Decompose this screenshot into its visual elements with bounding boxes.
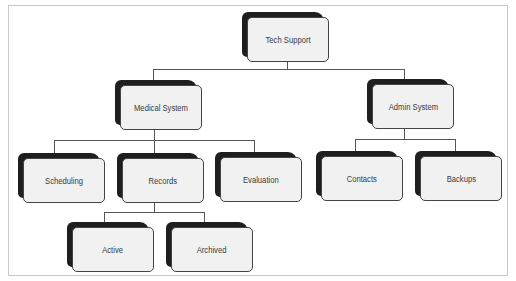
node-box: Evaluation — [220, 157, 302, 202]
node-evaluation: Evaluation — [215, 152, 297, 197]
connector-records-horizontal — [104, 212, 205, 213]
node-box: Records — [122, 158, 204, 203]
node-box: Medical System — [120, 85, 202, 130]
connector-admin-horizontal — [355, 139, 456, 140]
node-box: Tech Support — [247, 17, 329, 62]
node-tech-support: Tech Support — [242, 12, 324, 57]
node-label: Evaluation — [243, 175, 279, 185]
node-box: Archived — [171, 227, 253, 272]
node-label: Active — [103, 245, 124, 255]
node-records: Records — [117, 153, 199, 198]
node-label: Records — [149, 176, 177, 186]
node-archived: Archived — [166, 222, 248, 267]
node-label: Tech Support — [265, 35, 310, 45]
node-label: Medical System — [134, 103, 188, 113]
node-box: Backups — [420, 156, 502, 201]
node-scheduling: Scheduling — [18, 153, 100, 198]
node-box: Scheduling — [23, 158, 105, 203]
node-box: Active — [72, 227, 154, 272]
connector-level1-horizontal — [153, 69, 405, 70]
node-active: Active — [67, 222, 149, 267]
node-box: Admin System — [372, 84, 454, 129]
node-label: Backups — [446, 174, 475, 184]
connector-to-records — [154, 140, 155, 154]
node-label: Archived — [197, 245, 227, 255]
node-box: Contacts — [321, 156, 403, 201]
connector-to-scheduling — [54, 140, 55, 154]
node-backups: Backups — [415, 151, 497, 196]
node-label: Admin System — [388, 102, 437, 112]
node-contacts: Contacts — [316, 151, 398, 196]
node-label: Scheduling — [45, 176, 83, 186]
node-label: Contacts — [347, 174, 377, 184]
node-medical-system: Medical System — [115, 80, 197, 125]
node-admin-system: Admin System — [367, 79, 449, 124]
